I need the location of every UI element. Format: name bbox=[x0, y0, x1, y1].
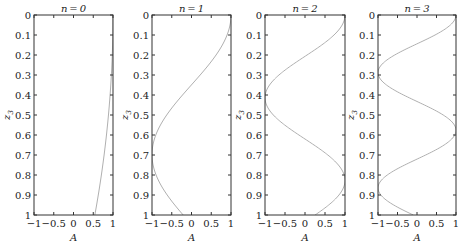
y-tick-label: 0.6 bbox=[359, 130, 375, 141]
y-axis-label: z3 bbox=[1, 110, 15, 121]
x-tick-label: −0.5 bbox=[273, 218, 297, 229]
x-tick-label: 0.5 bbox=[317, 218, 333, 229]
panel-n0: 00.10.20.30.40.50.60.70.80.91−1−0.500.51… bbox=[1, 3, 116, 243]
y-tick-label: 0.9 bbox=[15, 190, 31, 201]
x-axis-label: A bbox=[69, 232, 77, 243]
mode-curve bbox=[265, 15, 345, 215]
x-tick-label: −1 bbox=[258, 218, 273, 229]
x-tick-label: 0 bbox=[70, 218, 76, 229]
y-tick-label: 0 bbox=[143, 10, 149, 21]
y-tick-label: 0.8 bbox=[15, 170, 31, 181]
y-tick-label: 0 bbox=[369, 10, 375, 21]
axes-frame bbox=[378, 15, 456, 215]
axes-frame bbox=[265, 15, 345, 215]
y-tick-label: 0.2 bbox=[246, 50, 262, 61]
x-tick-label: 0 bbox=[414, 218, 420, 229]
x-tick-label: −1 bbox=[145, 218, 160, 229]
x-tick-label: −0.5 bbox=[42, 218, 66, 229]
x-tick-label: 0.5 bbox=[85, 218, 101, 229]
y-tick-label: 0.2 bbox=[133, 50, 149, 61]
x-tick-label: −0.5 bbox=[385, 218, 409, 229]
y-tick-label: 0 bbox=[25, 10, 31, 21]
y-axis-label: z3 bbox=[345, 110, 359, 121]
axes-frame bbox=[34, 15, 113, 215]
y-tick-label: 0.8 bbox=[246, 170, 262, 181]
y-tick-label: 0.7 bbox=[133, 150, 149, 161]
x-axis-label: A bbox=[187, 232, 195, 243]
y-tick-label: 0.6 bbox=[133, 130, 149, 141]
y-tick-label: 0.6 bbox=[15, 130, 31, 141]
x-tick-label: 0 bbox=[188, 218, 194, 229]
y-tick-label: 0.4 bbox=[246, 90, 262, 101]
mode-curve bbox=[152, 15, 231, 215]
y-axis-label: z3 bbox=[232, 110, 246, 121]
y-tick-label: 0.7 bbox=[15, 150, 31, 161]
panel-n1: 00.10.20.30.40.50.60.70.80.91−1−0.500.51… bbox=[119, 3, 234, 243]
x-tick-label: 0.5 bbox=[429, 218, 445, 229]
x-tick-label: 1 bbox=[342, 218, 348, 229]
x-axis-label: A bbox=[412, 232, 420, 243]
y-tick-label: 0.5 bbox=[359, 110, 375, 121]
x-tick-label: −0.5 bbox=[160, 218, 184, 229]
y-tick-label: 0.7 bbox=[359, 150, 375, 161]
y-tick-label: 0.1 bbox=[246, 30, 262, 41]
y-tick-label: 0.5 bbox=[15, 110, 31, 121]
y-tick-label: 0 bbox=[256, 10, 262, 21]
panel-title: n = 2 bbox=[292, 3, 317, 14]
y-tick-label: 0.3 bbox=[15, 70, 31, 81]
y-tick-label: 0.3 bbox=[359, 70, 375, 81]
panel-title: n = 1 bbox=[179, 3, 204, 14]
y-tick-label: 0.2 bbox=[15, 50, 31, 61]
y-tick-label: 0.3 bbox=[133, 70, 149, 81]
axes-frame bbox=[152, 15, 231, 215]
panel-n3: 00.10.20.30.40.50.60.70.80.91−1−0.500.51… bbox=[345, 3, 459, 243]
y-tick-label: 0.8 bbox=[359, 170, 375, 181]
x-tick-label: 1 bbox=[228, 218, 234, 229]
y-axis-label: z3 bbox=[119, 110, 133, 121]
mode-curve bbox=[378, 15, 456, 215]
y-tick-label: 0.4 bbox=[15, 90, 31, 101]
x-axis-label: A bbox=[300, 232, 308, 243]
x-tick-label: −1 bbox=[27, 218, 42, 229]
x-tick-label: −1 bbox=[371, 218, 386, 229]
x-tick-label: 0 bbox=[302, 218, 308, 229]
y-tick-label: 0.9 bbox=[246, 190, 262, 201]
y-tick-label: 0.5 bbox=[133, 110, 149, 121]
y-tick-label: 0.3 bbox=[246, 70, 262, 81]
y-tick-label: 0.9 bbox=[133, 190, 149, 201]
y-tick-label: 0.1 bbox=[359, 30, 375, 41]
y-tick-label: 0.4 bbox=[359, 90, 375, 101]
x-tick-label: 1 bbox=[453, 218, 459, 229]
panel-n2: 00.10.20.30.40.50.60.70.80.91−1−0.500.51… bbox=[232, 3, 348, 243]
y-tick-label: 0.8 bbox=[133, 170, 149, 181]
y-tick-label: 0.5 bbox=[246, 110, 262, 121]
y-tick-label: 0.7 bbox=[246, 150, 262, 161]
y-tick-label: 0.1 bbox=[133, 30, 149, 41]
y-tick-label: 0.4 bbox=[133, 90, 149, 101]
panel-title: n = 0 bbox=[61, 3, 87, 14]
y-tick-label: 0.9 bbox=[359, 190, 375, 201]
x-tick-label: 1 bbox=[110, 218, 116, 229]
y-tick-label: 0.2 bbox=[359, 50, 375, 61]
panel-title: n = 3 bbox=[404, 3, 429, 14]
figure: 00.10.20.30.40.50.60.70.80.91−1−0.500.51… bbox=[0, 0, 464, 248]
y-tick-label: 0.6 bbox=[246, 130, 262, 141]
y-tick-label: 0.1 bbox=[15, 30, 31, 41]
x-tick-label: 0.5 bbox=[203, 218, 219, 229]
